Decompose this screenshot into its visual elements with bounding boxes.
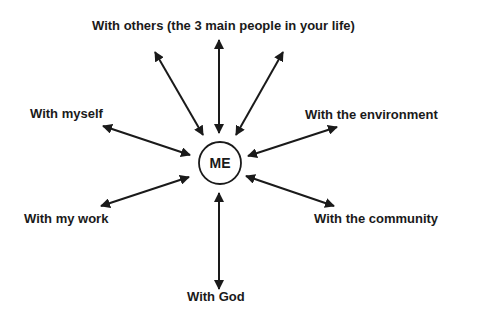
relationship-diagram: ME With others (the 3 main people in you… [0, 0, 479, 316]
label-others: With others (the 3 main people in your l… [92, 19, 355, 32]
double-arrow-environment [248, 127, 337, 156]
label-community: With the community [314, 212, 438, 225]
center-label: ME [210, 155, 231, 171]
double-arrow-others [155, 52, 203, 135]
double-arrow-others [236, 52, 283, 135]
double-arrow-community [246, 176, 334, 206]
label-god: With God [187, 290, 245, 303]
label-myself: With myself [30, 107, 103, 120]
label-work: With my work [24, 212, 108, 225]
arrows-layer [0, 0, 479, 316]
double-arrow-work [101, 177, 189, 206]
double-arrow-myself [103, 126, 190, 155]
label-environment: With the environment [305, 108, 438, 121]
